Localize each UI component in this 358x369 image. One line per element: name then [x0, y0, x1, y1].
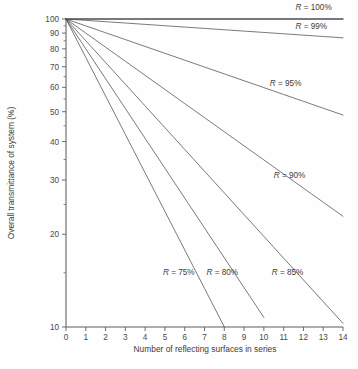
y-axis-tick-labels: 102030405060708090100 [45, 15, 59, 332]
x-axis-tick-labels: 01234567891011121314 [64, 333, 348, 342]
x-tick-label-1: 1 [84, 333, 89, 342]
x-tick-label-6: 6 [182, 333, 187, 342]
x-tick-label-4: 4 [143, 333, 148, 342]
x-tick-label-0: 0 [64, 333, 69, 342]
y-tick-label-40: 40 [50, 138, 60, 147]
x-tick-label-2: 2 [103, 333, 108, 342]
y-tick-label-70: 70 [50, 63, 60, 72]
x-tick-label-11: 11 [279, 333, 288, 342]
x-tick-label-12: 12 [299, 333, 309, 342]
x-tick-label-8: 8 [222, 333, 227, 342]
chart-figure: 102030405060708090100 012345678910111213… [0, 0, 358, 369]
y-axis-title: Overall transmittance of system (%) [6, 106, 16, 239]
series-label-85-percent: R = 85% [272, 268, 304, 277]
curve-R-95 [66, 19, 343, 115]
y-tick-label-50: 50 [50, 108, 60, 117]
x-tick-label-13: 13 [319, 333, 329, 342]
x-tick-label-3: 3 [123, 333, 128, 342]
y-tick-label-60: 60 [50, 83, 60, 92]
series-label-100-percent: R = 100% [296, 3, 332, 12]
series-label-90-percent: R = 90% [274, 171, 306, 180]
x-axis-ticks [66, 327, 343, 331]
series-label-95-percent: R = 95% [270, 79, 302, 88]
curve-R-75 [66, 19, 224, 327]
curve-R-90 [66, 19, 343, 216]
y-tick-label-90: 90 [50, 29, 60, 38]
series-annotations: R = 100%R = 99%R = 95%R = 90%R = 85%R = … [163, 3, 332, 278]
x-tick-label-9: 9 [242, 333, 247, 342]
y-tick-label-80: 80 [50, 45, 60, 54]
y-axis-ticks [62, 19, 66, 327]
series-label-99-percent: R = 99% [296, 22, 328, 31]
series-label-80-percent: R = 80% [206, 268, 238, 277]
y-tick-label-100: 100 [45, 15, 59, 24]
y-tick-label-20: 20 [50, 230, 60, 239]
x-axis-title: Number of reflecting surfaces in series [134, 344, 277, 354]
x-tick-label-5: 5 [163, 333, 168, 342]
x-tick-label-7: 7 [202, 333, 207, 342]
y-tick-label-10: 10 [50, 323, 60, 332]
x-tick-label-10: 10 [259, 333, 269, 342]
y-tick-label-30: 30 [50, 176, 60, 185]
transmittance-log-plot: 102030405060708090100 012345678910111213… [0, 0, 358, 369]
x-tick-label-14: 14 [338, 333, 348, 342]
series-label-75-percent: R = 75% [163, 268, 195, 277]
